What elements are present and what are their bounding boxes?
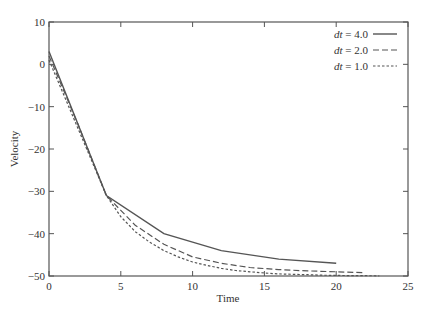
x-tick-label: 5 [118,280,124,292]
y-tick-label: −30 [28,185,46,197]
y-tick-label: −50 [28,270,46,282]
velocity-chart: 0510152025100−10−20−30−40−50 dt = 4.0dt … [0,0,429,313]
y-tick-label: 10 [34,16,46,28]
y-tick-label: −20 [28,143,46,155]
x-axis-label: Time [217,292,240,304]
x-tick-label: 20 [331,280,343,292]
y-tick-label: −40 [28,228,46,240]
x-tick-label: 0 [46,280,52,292]
x-tick-label: 25 [403,280,415,292]
legend-label: dt = 2.0 [334,44,369,56]
y-axis-label: Velocity [8,130,20,167]
y-tick-label: −10 [28,101,46,113]
series-line-solid [49,52,336,264]
legend-label: dt = 4.0 [334,28,369,40]
series-line-dashed [49,56,365,273]
x-tick-label: 10 [187,280,199,292]
series-lines [49,52,379,276]
series-line-dotted [49,60,379,276]
legend: dt = 4.0dt = 2.0dt = 1.0 [334,28,397,72]
x-tick-label: 15 [259,280,271,292]
y-tick-label: 0 [40,58,46,70]
legend-label: dt = 1.0 [334,60,369,72]
